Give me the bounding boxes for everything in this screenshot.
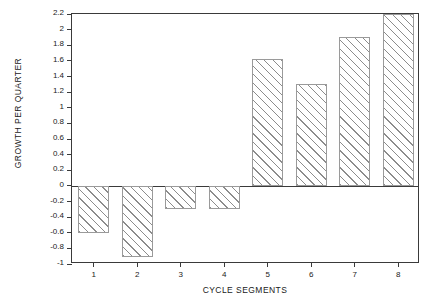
x-tick-mark [354,262,355,267]
y-tick-mark [67,201,72,202]
y-tick-mark [67,107,72,108]
y-tick-mark [67,60,72,61]
bar-segment-4 [209,186,240,209]
y-tick-mark [67,29,72,30]
x-tick-mark [224,262,225,267]
x-tick-label: 7 [343,270,367,279]
y-tick-label: 0.4 [53,149,64,158]
x-tick-label: 6 [299,270,323,279]
y-tick-mark [67,45,72,46]
y-tick-mark [67,76,72,77]
y-tick-mark [67,232,72,233]
bar-segment-8 [383,14,414,186]
y-tick-label: -0.2 [50,196,64,205]
bar-segment-5 [252,59,283,186]
bar-segment-3 [165,186,196,209]
y-tick-label: 1.8 [53,39,64,48]
x-tick-label: 8 [386,270,410,279]
bar-chart: GROWTH PER QUARTER CYCLE SEGMENTS 2.221.… [0,0,431,304]
y-tick-label: 1.4 [53,71,64,80]
bar-segment-6 [296,84,327,186]
y-tick-mark [67,92,72,93]
y-tick-mark [67,217,72,218]
y-tick-label: 1.2 [53,86,64,95]
y-tick-label: 0.2 [53,164,64,173]
x-tick-label: 3 [169,270,193,279]
y-tick-label: 0.8 [53,117,64,126]
y-tick-label: -1 [57,258,64,267]
x-axis-title: CYCLE SEGMENTS [71,285,419,295]
y-tick-label: 1 [60,102,64,111]
y-tick-mark [67,154,72,155]
plot-area: 2.221.81.61.41.210.80.60.40.20-0.2-0.4-0… [71,13,419,263]
y-tick-label: -0.8 [50,242,64,251]
y-tick-mark [67,123,72,124]
x-tick-mark [180,262,181,267]
x-tick-label: 5 [256,270,280,279]
y-tick-mark [67,185,72,186]
y-tick-label: -0.4 [50,211,64,220]
x-tick-mark [267,262,268,267]
y-tick-mark [67,248,72,249]
bar-segment-1 [78,186,109,233]
x-tick-mark [93,262,94,267]
y-tick-label: 1.6 [53,55,64,64]
y-tick-mark [67,264,72,265]
x-tick-label: 1 [82,270,106,279]
y-tick-label: 2 [60,24,64,33]
y-axis-title: GROWTH PER QUARTER [13,33,23,193]
bar-segment-2 [122,186,153,257]
y-tick-label: 0 [60,180,64,189]
x-tick-label: 2 [125,270,149,279]
y-tick-label: -0.6 [50,227,64,236]
x-tick-mark [311,262,312,267]
y-tick-mark [67,170,72,171]
y-tick-mark [67,14,72,15]
x-tick-mark [398,262,399,267]
y-tick-label: 2.2 [53,8,64,17]
x-tick-mark [137,262,138,267]
x-tick-label: 4 [212,270,236,279]
y-tick-label: 0.6 [53,133,64,142]
y-tick-mark [67,139,72,140]
bar-segment-7 [339,37,370,185]
